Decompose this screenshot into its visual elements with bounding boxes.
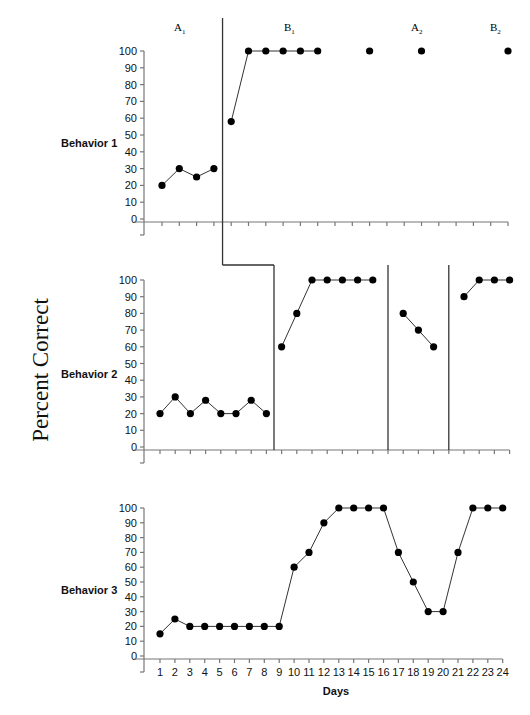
y-tick-label: 20	[125, 179, 137, 191]
y-tick-label: 30	[125, 163, 137, 175]
data-point	[366, 47, 373, 54]
x-tick-label: 1	[157, 666, 163, 678]
y-tick-label: 100	[119, 502, 137, 514]
y-tick-label: 70	[125, 324, 137, 336]
x-tick-label: 10	[288, 666, 300, 678]
y-tick-label: 40	[125, 374, 137, 386]
data-point	[217, 410, 224, 417]
data-point	[415, 327, 422, 334]
data-point	[305, 549, 312, 556]
data-point	[469, 504, 476, 511]
data-point	[262, 47, 269, 54]
data-point	[193, 173, 200, 180]
y-tick-label: 50	[125, 358, 137, 370]
data-point	[232, 410, 239, 417]
data-point	[202, 397, 209, 404]
x-tick-label: 5	[217, 666, 223, 678]
y-tick-label: 0	[131, 213, 137, 225]
y-tick-label: 50	[125, 129, 137, 141]
y-tick-label: 90	[125, 62, 137, 74]
x-tick-label: 4	[202, 666, 208, 678]
data-point	[400, 310, 407, 317]
data-point	[369, 276, 376, 283]
data-point	[380, 504, 387, 511]
phase-label-b1: B1	[284, 21, 295, 36]
y-tick-label: 30	[125, 391, 137, 403]
data-point	[430, 343, 437, 350]
y-tick-label: 60	[125, 112, 137, 124]
data-point	[476, 276, 483, 283]
data-point	[335, 504, 342, 511]
y-tick-label: 100	[119, 45, 137, 57]
panels: 0102030405060708090100010203040506070809…	[119, 18, 514, 678]
data-point	[418, 47, 425, 54]
data-point	[308, 276, 315, 283]
x-tick-label: 9	[276, 666, 282, 678]
behavior-1-label: Behavior 1	[61, 137, 117, 149]
data-point	[410, 578, 417, 585]
data-point	[506, 276, 513, 283]
x-tick-label: 11	[303, 666, 314, 678]
y-tick-label: 0	[131, 650, 137, 662]
data-point	[172, 393, 179, 400]
y-tick-label: 30	[125, 606, 137, 618]
x-tick-label: 14	[348, 666, 360, 678]
data-path	[162, 169, 214, 186]
x-tick-label: 2	[172, 666, 178, 678]
y-tick-label: 100	[119, 274, 137, 286]
data-point	[263, 410, 270, 417]
data-point	[460, 293, 467, 300]
y-tick-label: 90	[125, 517, 137, 529]
data-point	[156, 410, 163, 417]
y-tick-label: 90	[125, 291, 137, 303]
data-point	[176, 165, 183, 172]
data-point	[158, 182, 165, 189]
panel-1: 0102030405060708090100	[119, 18, 512, 265]
phase-label-b2: B2	[490, 21, 501, 36]
data-point	[491, 276, 498, 283]
x-tick-label: 15	[362, 666, 374, 678]
y-tick-label: 80	[125, 307, 137, 319]
y-tick-label: 80	[125, 79, 137, 91]
data-point	[365, 504, 372, 511]
phase-label-a2: A2	[411, 21, 423, 36]
data-point	[297, 47, 304, 54]
y-tick-label: 60	[125, 341, 137, 353]
y-tick-label: 60	[125, 561, 137, 573]
data-point	[484, 504, 491, 511]
data-point	[210, 165, 217, 172]
data-point	[454, 549, 461, 556]
y-axis-title: Percent Correct	[28, 298, 53, 442]
x-tick-label: 13	[333, 666, 345, 678]
data-point	[261, 623, 268, 630]
x-tick-label: 17	[392, 666, 404, 678]
data-point	[320, 519, 327, 526]
x-tick-label: 23	[482, 666, 494, 678]
multiple-baseline-chart: A1 B1 A2 B2 Percent Correct Behavior 1 B…	[0, 0, 530, 715]
x-tick-label: 18	[407, 666, 419, 678]
data-point	[440, 608, 447, 615]
data-point	[425, 608, 432, 615]
y-tick-label: 20	[125, 620, 137, 632]
data-point	[339, 276, 346, 283]
data-point	[171, 615, 178, 622]
x-tick-label: 3	[187, 666, 193, 678]
y-tick-label: 70	[125, 95, 137, 107]
y-tick-label: 20	[125, 408, 137, 420]
data-point	[324, 276, 331, 283]
y-tick-label: 50	[125, 576, 137, 588]
data-point	[350, 504, 357, 511]
data-point	[245, 47, 252, 54]
y-tick-label: 70	[125, 546, 137, 558]
data-point	[504, 47, 511, 54]
x-tick-label: 24	[497, 666, 509, 678]
y-tick-label: 0	[131, 441, 137, 453]
y-tick-label: 10	[125, 635, 137, 647]
y-tick-label: 80	[125, 532, 137, 544]
data-point	[280, 47, 287, 54]
data-point	[246, 623, 253, 630]
y-tick-label: 10	[125, 196, 137, 208]
data-point	[201, 623, 208, 630]
behavior-3-label: Behavior 3	[61, 584, 117, 596]
data-path	[160, 508, 503, 634]
